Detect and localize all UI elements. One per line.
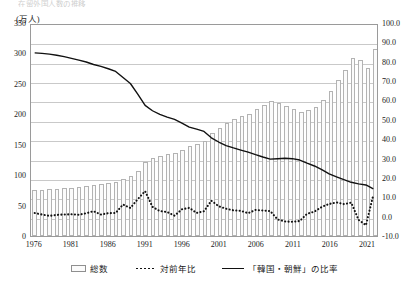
korea-ratio-solid-line — [35, 53, 374, 189]
right-axis-tick-label: 70.0 — [382, 77, 403, 86]
right-axis-tick-label: 60.0 — [382, 96, 403, 105]
left-axis-tick-label: 250 — [0, 80, 26, 89]
right-axis-tick-label: 100.0 — [382, 19, 403, 28]
legend-label-korea-ratio: 「韓国・朝鮮」の比率 — [248, 262, 338, 274]
x-axis-tick-label: 2006 — [241, 240, 271, 249]
right-axis-tick-label: 30.0 — [382, 155, 403, 164]
chart-title: 在留外国人数の推移 — [18, 0, 318, 7]
x-axis-tick-label: 1986 — [93, 240, 123, 249]
legend-item-yoy[interactable]: 対前年比 — [134, 262, 196, 274]
left-axis-tick-label: 150 — [0, 141, 26, 150]
x-axis-tick-label: 1991 — [130, 240, 160, 249]
x-axis-tick-label: 2016 — [315, 240, 345, 249]
bar-swatch-icon — [71, 265, 86, 272]
plot-area — [30, 24, 378, 237]
left-axis-tick-label: 350 — [0, 19, 26, 28]
right-axis-tick-label: 40.0 — [382, 135, 403, 144]
x-axis-tick-label: 1976 — [19, 240, 49, 249]
legend-label-yoy: 対前年比 — [160, 262, 196, 274]
x-axis-tick-label: 1996 — [167, 240, 197, 249]
line-series-overlay — [31, 25, 377, 236]
left-axis-tick-label: 50 — [0, 202, 26, 211]
left-axis-tick-label: 200 — [0, 110, 26, 119]
left-axis-tick-label: 300 — [0, 49, 26, 58]
dotted-line-swatch-icon — [134, 267, 156, 270]
right-axis-tick-label: 50.0 — [382, 116, 403, 125]
x-axis-tick-label: 1981 — [56, 240, 86, 249]
legend-label-total: 総数 — [90, 262, 108, 274]
right-axis-tick-label: 90.0 — [382, 38, 403, 47]
right-axis-tick-label: 10.0 — [382, 193, 403, 202]
right-axis-tick-label: 80.0 — [382, 58, 403, 67]
chart-legend: 総数 対前年比 「韓国・朝鮮」の比率 — [30, 259, 378, 277]
legend-item-total[interactable]: 総数 — [71, 262, 108, 274]
x-axis-tick-label: 2021 — [352, 240, 382, 249]
x-axis-tick-label: 2001 — [204, 240, 234, 249]
chart-container: 在留外国人数の推移 (万人) 350300250200150100500 100… — [0, 0, 403, 281]
yoy-dotted-line — [35, 191, 374, 225]
x-axis-tick-label: 2011 — [278, 240, 308, 249]
left-axis-tick-label: 100 — [0, 171, 26, 180]
right-axis-tick-label: -10.0 — [382, 232, 403, 241]
legend-item-korea-ratio[interactable]: 「韓国・朝鮮」の比率 — [222, 262, 338, 274]
right-axis-tick-label: 0.0 — [382, 213, 403, 222]
solid-line-swatch-icon — [222, 268, 244, 269]
right-axis-tick-label: 20.0 — [382, 174, 403, 183]
